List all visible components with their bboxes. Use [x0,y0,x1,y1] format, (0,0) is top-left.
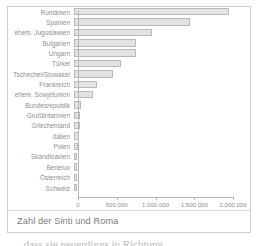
x-axis-tick [117,197,118,200]
bar-row: Skandinavien [8,152,250,162]
bar-row: Schweiz [8,183,250,193]
bar-chart-plot-area: RumänienSpanienehem. JugoslawienBulgarie… [8,7,250,203]
page-body-text-fragment: … dass sie neuerdings in Richtung [10,238,250,246]
bar-track [74,28,250,38]
chart-figure: RumänienSpanienehem. JugoslawienBulgarie… [7,6,251,233]
bar-category-label: Frankreich [8,81,74,88]
bar-category-label: ehem. Jugoslawien [8,29,74,36]
bar-row: Österreich [8,173,250,183]
bar-track [74,17,250,27]
bar-row: Bulgarien [8,38,250,48]
bar-category-label: Österreich [8,174,74,181]
x-axis-tick [78,197,79,200]
bar-category-label: Polen [8,143,74,150]
bar-category-label: Ungarn [8,50,74,57]
bar [74,60,121,67]
bar [74,163,77,170]
bar-row: Bundesrepublik [8,100,250,110]
bar-category-label: Griechenland [8,122,74,129]
bar [74,39,136,46]
bar-category-label: Bulgarien [8,40,74,47]
bar-row: Italien [8,131,250,141]
bar-track [74,79,250,89]
bar-track [74,59,250,69]
bar-category-label: Türkei [8,60,74,67]
bar-row: Rumänien [8,7,250,17]
bar-track [74,48,250,58]
bar-category-label: ehem. Sowjetunion [8,91,74,98]
bar [74,70,113,77]
bar [74,153,77,160]
bar-track [74,90,250,100]
bar-row: Griechenland [8,121,250,131]
bar-track [74,183,250,193]
bar-row: Großbritannien [8,110,250,120]
bar-track [74,7,250,17]
bar-category-label: Großbritannien [8,112,74,119]
bar-track [74,131,250,141]
y-axis-line [78,11,79,197]
bar-track [74,141,250,151]
bar-category-label: Tschechei/Slowakei [8,71,74,78]
x-axis-tick-label: 2.000.000 [219,201,246,208]
bar-track [74,121,250,131]
x-axis-tick-label: 1.500.000 [181,201,208,208]
bar-track [74,173,250,183]
bar [74,8,229,15]
bar-rows: RumänienSpanienehem. JugoslawienBulgarie… [8,7,250,193]
bar-category-label: Bundesrepublik [8,102,74,109]
bar [74,174,77,181]
bar-row: Türkei [8,59,250,69]
bar-track [74,100,250,110]
bar [74,18,190,25]
x-axis-tick [194,197,195,200]
bar-track [74,162,250,172]
x-axis-tick [156,197,157,200]
chart-caption: Zahl der Sinti und Roma [17,215,118,227]
x-axis-tick [233,197,234,200]
bar-row: ehem. Jugoslawien [8,28,250,38]
bar-row: ehem. Sowjetunion [8,90,250,100]
x-axis-tick-label: 1.000.000 [142,201,169,208]
bar-row: Tschechei/Slowakei [8,69,250,79]
bar-track [74,69,250,79]
bar-row: Frankreich [8,79,250,89]
bar-row: Polen [8,141,250,151]
bar [74,184,77,191]
bar-category-label: Benelux [8,164,74,171]
bar-row: Ungarn [8,48,250,58]
x-axis-tick-label: 0 [76,201,79,208]
bar [74,91,93,98]
bar-category-label: Spanien [8,19,74,26]
bar [74,49,136,56]
bar-track [74,110,250,120]
bar-track [74,152,250,162]
bar-category-label: Skandinavien [8,153,74,160]
bar [74,29,152,36]
bar-category-label: Schweiz [8,185,74,192]
bar-category-label: Italien [8,133,74,140]
bar-row: Spanien [8,17,250,27]
caption-divider [8,210,250,211]
x-axis-tick-label: 500.000 [106,201,128,208]
bar-row: Benelux [8,162,250,172]
bar-category-label: Rumänien [8,9,74,16]
bar-track [74,38,250,48]
